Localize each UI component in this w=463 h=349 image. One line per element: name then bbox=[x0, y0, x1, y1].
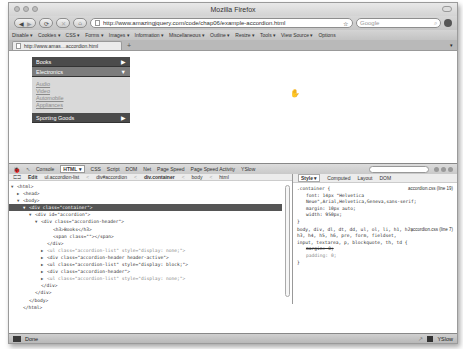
breadcrumb-item[interactable]: ul.accordion-list bbox=[44, 174, 79, 180]
accordion-header-sporting-goods[interactable]: Sporting Goods ▶ bbox=[32, 113, 130, 123]
devbar-miscellaneous[interactable]: Miscellaneous ▾ bbox=[169, 32, 205, 38]
side-tab-computed[interactable]: Computed bbox=[327, 175, 350, 181]
maximize-window-button[interactable] bbox=[32, 6, 38, 12]
window-title: Mozilla Firefox bbox=[9, 3, 457, 16]
devbar-images[interactable]: Images ▾ bbox=[109, 32, 130, 38]
breadcrumb-item[interactable]: body bbox=[192, 174, 203, 180]
firebug-tab-net[interactable]: Net bbox=[143, 166, 151, 172]
devbar-forms[interactable]: Forms ▾ bbox=[85, 32, 104, 38]
tab-list-icon[interactable]: ▾ bbox=[450, 42, 453, 48]
firebug-tab-page-speed-activity[interactable]: Page Speed Activity bbox=[191, 166, 235, 172]
css-property[interactable]: font: 14px "Helvetica bbox=[297, 193, 453, 200]
title-bar: Mozilla Firefox bbox=[9, 3, 457, 16]
firebug-tab-yslow[interactable]: YSlow bbox=[241, 166, 255, 172]
link-video[interactable]: Video bbox=[36, 88, 126, 95]
accordion-header-books[interactable]: Books ▶ bbox=[32, 57, 130, 67]
firebug-tab-script[interactable]: Script bbox=[107, 166, 120, 172]
tree-node[interactable]: ▼<div id="accordion"> bbox=[9, 211, 292, 218]
css-property[interactable]: Neue",Arial,Helvetica,Geneva,sans-serif; bbox=[297, 199, 453, 206]
addon-icon[interactable] bbox=[444, 19, 452, 27]
firebug-tab-css[interactable]: CSS bbox=[91, 166, 101, 172]
url-bar[interactable]: http://www.amazingjquery.com/code/chap06… bbox=[90, 18, 353, 28]
back-icon[interactable]: ◀ bbox=[19, 20, 24, 27]
tree-node[interactable]: </html> bbox=[9, 304, 292, 311]
tree-node[interactable]: ▶<ul class="accordion-list" style="displ… bbox=[9, 247, 292, 254]
breadcrumb-item[interactable]: div#accordion bbox=[96, 174, 127, 180]
expand-icon[interactable]: ⊏⊐ bbox=[13, 174, 21, 180]
tree-node[interactable]: ▼<div class="accordion-header"> bbox=[9, 218, 292, 225]
css-rule-selector[interactable]: .container {accordion.css (line 19) bbox=[297, 186, 453, 193]
new-tab-button[interactable]: + bbox=[127, 41, 131, 50]
tab-active[interactable]: http://www.amas…accordion.html bbox=[12, 41, 122, 50]
tree-node-selected[interactable]: ▼<div class="container"> bbox=[9, 204, 282, 211]
firebug-detach-button[interactable] bbox=[441, 167, 446, 172]
side-tab-dom[interactable]: DOM bbox=[379, 175, 391, 181]
firebug-tab-console[interactable]: Console bbox=[36, 166, 54, 172]
devbar-cookies[interactable]: Cookies ▾ bbox=[38, 32, 60, 38]
tree-node[interactable]: ▼<html> bbox=[9, 183, 292, 190]
firebug-tab-dom[interactable]: DOM bbox=[126, 166, 138, 172]
tree-node[interactable]: </div> bbox=[9, 282, 292, 289]
tree-node[interactable]: <h3>Books</h3> bbox=[9, 226, 292, 233]
devbar-tools[interactable]: Tools ▾ bbox=[260, 32, 276, 38]
firebug-icon[interactable]: 🐞 bbox=[13, 166, 20, 173]
firebug-tab-html[interactable]: HTML ▾ bbox=[60, 165, 84, 173]
css-source-link[interactable]: accordion.css (line 19) bbox=[408, 186, 453, 193]
inspect-icon[interactable]: ↖ bbox=[26, 166, 30, 172]
reload-button[interactable]: ⟳ bbox=[39, 18, 53, 28]
accordion-header-electronics[interactable]: Electronics ▼ bbox=[32, 67, 130, 77]
link-audio[interactable]: Audio bbox=[36, 81, 126, 88]
firebug-close-button[interactable] bbox=[448, 167, 453, 172]
url-text[interactable]: http://www.amazingjquery.com/code/chap06… bbox=[103, 20, 340, 26]
tree-node[interactable]: ▶<head> bbox=[9, 190, 292, 197]
stop-button[interactable]: ✕ bbox=[56, 18, 70, 28]
tree-node[interactable]: ▶<div class="accordion-header header-act… bbox=[9, 254, 292, 261]
search-box[interactable]: Google ⌕ bbox=[356, 18, 441, 28]
tree-node[interactable]: ▶<ul class="accordion-list" style="displ… bbox=[9, 275, 292, 282]
yslow-icon[interactable] bbox=[427, 336, 433, 342]
css-rule-selector[interactable]: body, div, dl, dt, dd, ul, ol, li, h1, h… bbox=[297, 227, 415, 247]
vertical-scrollbar[interactable] bbox=[285, 185, 290, 297]
tree-node[interactable]: </body> bbox=[9, 297, 292, 304]
firebug-status-icon[interactable] bbox=[13, 336, 21, 342]
firebug-search-input[interactable] bbox=[369, 166, 429, 173]
pagespeed-icon[interactable]: ↗ bbox=[418, 336, 423, 342]
css-property[interactable]: width: 950px; bbox=[297, 212, 453, 219]
tree-node[interactable]: <span class=""></span> bbox=[9, 233, 292, 240]
tree-node[interactable]: ▼<body> bbox=[9, 197, 292, 204]
tree-node[interactable]: </div> bbox=[9, 289, 292, 296]
link-automobile[interactable]: Automobile bbox=[36, 95, 126, 102]
devbar-outline[interactable]: Outline ▾ bbox=[210, 32, 230, 38]
firebug-minimize-button[interactable] bbox=[434, 167, 439, 172]
firebug-tab-page-speed[interactable]: Page Speed bbox=[157, 166, 185, 172]
css-property[interactable]: padding: 0; bbox=[297, 253, 453, 260]
devbar-view-source[interactable]: View Source ▾ bbox=[281, 32, 313, 38]
window-controls bbox=[14, 6, 38, 12]
yslow-label[interactable]: YSlow bbox=[437, 336, 453, 342]
tree-node[interactable]: </div> bbox=[9, 240, 292, 247]
tree-node[interactable]: ▶<div class="accordion-header"> bbox=[9, 268, 292, 275]
toolbar-toggle-button[interactable] bbox=[442, 6, 452, 12]
css-property-overridden[interactable]: margin: 0; bbox=[297, 246, 453, 253]
devbar-information[interactable]: Information ▾ bbox=[135, 32, 164, 38]
search-icon[interactable]: ⌕ bbox=[434, 20, 437, 27]
breadcrumb-item[interactable]: div.container bbox=[144, 174, 175, 180]
search-input[interactable]: Google bbox=[360, 20, 431, 26]
home-button[interactable]: ⌂ bbox=[73, 18, 87, 28]
css-property[interactable]: margin: 10px auto; bbox=[297, 206, 453, 213]
devbar-resize[interactable]: Resize ▾ bbox=[235, 32, 255, 38]
breadcrumb-item[interactable]: html bbox=[219, 174, 228, 180]
bookmark-star-icon[interactable]: ☆ bbox=[343, 20, 348, 27]
css-source-link[interactable]: accordion.css (line 7) bbox=[410, 227, 453, 234]
devbar-disable[interactable]: Disable ▾ bbox=[12, 32, 33, 38]
side-tab-layout[interactable]: Layout bbox=[357, 175, 372, 181]
devbar-options[interactable]: Options bbox=[318, 32, 335, 38]
minimize-window-button[interactable] bbox=[23, 6, 29, 12]
close-window-button[interactable] bbox=[14, 6, 20, 12]
forward-icon[interactable]: ▶ bbox=[27, 20, 32, 27]
tree-node[interactable]: ▶<ul class="accordion-list" style="displ… bbox=[9, 261, 292, 268]
side-tab-style[interactable]: Style ▾ bbox=[298, 174, 320, 182]
devbar-css[interactable]: CSS ▾ bbox=[66, 32, 81, 38]
edit-button[interactable]: Edit bbox=[28, 174, 37, 180]
link-appliances[interactable]: Appliances bbox=[36, 102, 126, 109]
